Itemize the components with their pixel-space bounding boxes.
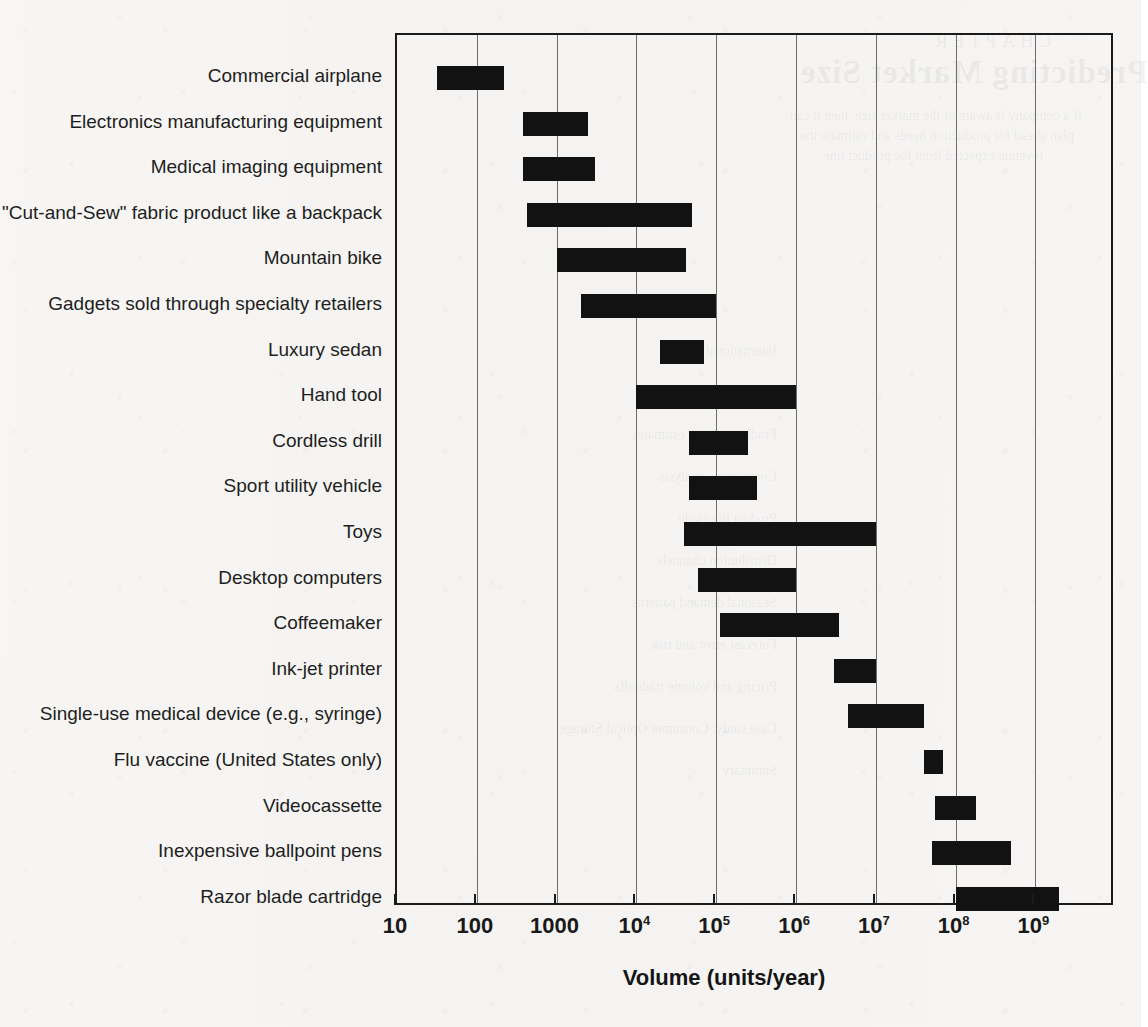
x-axis-title: Volume (units/year) bbox=[623, 965, 826, 991]
x-tick-label: 100 bbox=[456, 913, 493, 939]
x-tick-label: 106 bbox=[778, 913, 810, 939]
x-tick-label: 105 bbox=[698, 913, 730, 939]
range-bar bbox=[523, 112, 588, 136]
category-labels: Commercial airplaneElectronics manufactu… bbox=[0, 0, 382, 905]
x-tick bbox=[1032, 894, 1034, 905]
range-bar bbox=[834, 659, 876, 683]
gridline bbox=[796, 35, 797, 903]
range-bar bbox=[660, 340, 703, 364]
range-bar bbox=[932, 841, 1012, 865]
category-label: Flu vaccine (United States only) bbox=[114, 749, 382, 771]
gridline bbox=[876, 35, 877, 903]
x-tick-label: 1000 bbox=[530, 913, 579, 939]
x-tick-label: 107 bbox=[858, 913, 890, 939]
category-label: "Cut-and-Sew" fabric product like a back… bbox=[2, 202, 382, 224]
category-label: Razor blade cartridge bbox=[200, 886, 382, 908]
category-label: Electronics manufacturing equipment bbox=[69, 111, 382, 133]
range-bar bbox=[523, 157, 595, 181]
range-bar bbox=[689, 431, 748, 455]
range-bar bbox=[437, 66, 504, 90]
x-tick-label: 10 bbox=[383, 913, 407, 939]
category-label: Sport utility vehicle bbox=[224, 475, 382, 497]
range-bar bbox=[720, 613, 840, 637]
category-label: Single-use medical device (e.g., syringe… bbox=[40, 703, 382, 725]
range-bar bbox=[848, 704, 924, 728]
gridline bbox=[477, 35, 478, 903]
category-label: Luxury sedan bbox=[268, 339, 382, 361]
category-label: Mountain bike bbox=[264, 247, 382, 269]
range-bar bbox=[581, 294, 717, 318]
gridline bbox=[1035, 35, 1036, 903]
plot-area bbox=[395, 33, 1113, 905]
category-label: Coffeemaker bbox=[274, 612, 382, 634]
range-bar bbox=[684, 522, 875, 546]
gridline bbox=[956, 35, 957, 903]
range-bar bbox=[956, 887, 1060, 911]
x-tick bbox=[953, 894, 955, 905]
category-label: Videocassette bbox=[263, 795, 382, 817]
x-tick bbox=[554, 894, 556, 905]
category-label: Toys bbox=[343, 521, 382, 543]
category-label: Medical imaging equipment bbox=[151, 156, 382, 178]
category-label: Hand tool bbox=[301, 384, 382, 406]
range-bar bbox=[924, 750, 943, 774]
gridline bbox=[636, 35, 637, 903]
x-tick-label: 109 bbox=[1018, 913, 1050, 939]
range-bar bbox=[689, 476, 757, 500]
category-label: Gadgets sold through specialty retailers bbox=[48, 293, 382, 315]
category-label: Ink-jet printer bbox=[271, 658, 382, 680]
range-bar bbox=[636, 385, 796, 409]
range-bar bbox=[935, 796, 976, 820]
category-label: Commercial airplane bbox=[208, 65, 382, 87]
gridline bbox=[716, 35, 717, 903]
range-bar bbox=[527, 203, 693, 227]
x-tick bbox=[474, 894, 476, 905]
x-tick bbox=[793, 894, 795, 905]
x-tick bbox=[633, 894, 635, 905]
x-tick bbox=[394, 894, 396, 905]
category-label: Inexpensive ballpoint pens bbox=[158, 840, 382, 862]
range-bar bbox=[557, 248, 687, 272]
range-bar bbox=[698, 568, 796, 592]
category-label: Desktop computers bbox=[218, 567, 382, 589]
category-label: Cordless drill bbox=[272, 430, 382, 452]
x-tick-label: 108 bbox=[938, 913, 970, 939]
x-tick bbox=[713, 894, 715, 905]
x-tick-label: 104 bbox=[619, 913, 651, 939]
x-tick bbox=[873, 894, 875, 905]
